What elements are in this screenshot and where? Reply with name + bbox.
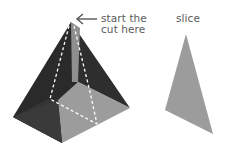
slice-label: slice	[176, 13, 200, 24]
slice-shape	[165, 34, 213, 134]
annotation-line-2: cut here	[101, 24, 147, 35]
arrow-icon	[77, 14, 97, 24]
cut-annotation: start the cut here	[101, 13, 147, 35]
